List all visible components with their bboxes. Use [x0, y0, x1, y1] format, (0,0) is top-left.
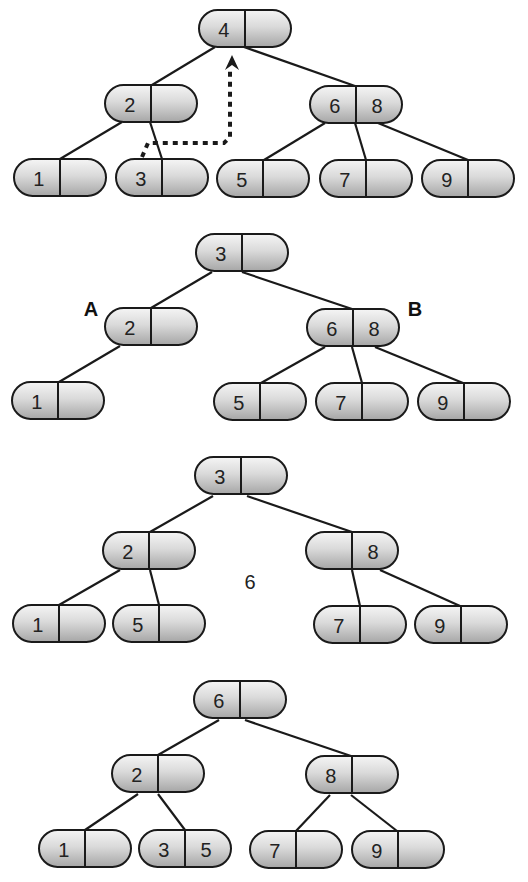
- tree-node-n2: 2: [105, 85, 197, 122]
- node-key-left: 1: [58, 839, 69, 861]
- node-key-right: 8: [368, 541, 379, 563]
- node-key-left: 6: [329, 95, 340, 117]
- tree-edge: [296, 795, 330, 831]
- tree-node-n4: 4: [199, 10, 291, 47]
- node-key-left: 3: [158, 839, 169, 861]
- tree-node-n3: 3: [116, 159, 208, 196]
- tree-edge: [380, 570, 460, 606]
- tree-node-n1: 1: [13, 605, 105, 642]
- node-key-left: 9: [441, 169, 452, 191]
- tree-node-n9: 9: [415, 606, 507, 643]
- arrow-up-icon: [225, 55, 239, 70]
- node-key-left: 1: [33, 168, 44, 190]
- tree-node-n1: 1: [39, 830, 131, 867]
- tree-node-n2: 2: [112, 755, 204, 792]
- node-key-left: 2: [124, 94, 135, 116]
- tree-edge: [352, 570, 360, 606]
- tree-edge: [378, 123, 468, 160]
- tree-edge: [244, 47, 355, 86]
- tree-node-n68: 68: [307, 309, 399, 346]
- tree-node-n6: 6: [194, 681, 286, 718]
- node-key-left: 9: [434, 615, 445, 637]
- subtree-label-b: B: [408, 298, 422, 320]
- tree-edge: [158, 794, 185, 830]
- tree-edge: [158, 720, 219, 755]
- tree-edge: [59, 570, 120, 605]
- tree-edge: [261, 347, 325, 383]
- tree-edge: [264, 123, 325, 160]
- tree-edge: [242, 272, 352, 309]
- tree-edge: [150, 122, 162, 159]
- tree-edge: [59, 346, 120, 382]
- node-key-left: 8: [325, 765, 336, 787]
- tree-edge: [352, 347, 362, 383]
- tree-node-n7: 7: [320, 160, 412, 197]
- tree-node-n5: 5: [214, 383, 306, 420]
- node-key-left: 3: [135, 168, 146, 190]
- node-key-left: 1: [31, 391, 42, 413]
- tree-node-n7: 7: [250, 831, 342, 868]
- node-key-left: 7: [333, 615, 344, 637]
- node-key-left: 2: [124, 317, 135, 339]
- tree-node-n1: 1: [14, 159, 106, 196]
- tree-edge: [150, 496, 213, 532]
- node-key-left: 9: [437, 392, 448, 414]
- tree-step-3: 32815796: [13, 457, 507, 643]
- node-key-left: 7: [269, 840, 280, 862]
- node-key-left: 7: [335, 392, 346, 414]
- node-key-left: 5: [132, 614, 143, 636]
- tree-step-4: 62813579: [39, 681, 444, 868]
- tree-node-n35: 35: [139, 830, 231, 867]
- tree-edge: [247, 496, 352, 532]
- tree-node-n9: 9: [352, 831, 444, 868]
- tree-node-n7: 7: [314, 606, 406, 643]
- node-key-left: 9: [371, 840, 382, 862]
- node-key-right: 8: [369, 318, 380, 340]
- tree-node-n8: 8: [306, 532, 398, 569]
- tree-diagram-canvas: 42681357932681579AB3281579662813579: [0, 0, 528, 882]
- node-key-right: 8: [372, 95, 383, 117]
- tree-node-n5: 5: [113, 605, 205, 642]
- node-key-left: 2: [131, 764, 142, 786]
- node-key-left: 3: [215, 243, 226, 265]
- node-key-right: 5: [201, 839, 212, 861]
- tree-node-n9: 9: [418, 383, 510, 420]
- node-key-left: 5: [236, 169, 247, 191]
- tree-node-n7: 7: [316, 383, 408, 420]
- tree-step-2: 32681579AB: [12, 234, 510, 420]
- tree-edge: [375, 347, 463, 383]
- floating-key: 6: [244, 571, 255, 593]
- tree-edge: [85, 794, 138, 830]
- tree-node-n5: 5: [217, 160, 309, 197]
- diagrams-root: 42681357932681579AB3281579662813579: [12, 10, 514, 868]
- tree-node-n2: 2: [103, 532, 195, 569]
- tree-node-n9: 9: [422, 160, 514, 197]
- node-key-left: 1: [32, 614, 43, 636]
- tree-edge: [351, 795, 397, 831]
- node-key-left: 5: [233, 392, 244, 414]
- node-key-left: 7: [339, 169, 350, 191]
- tree-node-n2: 2: [105, 308, 197, 345]
- node-key-left: 6: [213, 690, 224, 712]
- tree-step-1: 426813579: [14, 10, 514, 197]
- node-key-left: 4: [218, 19, 229, 41]
- tree-node-n68: 68: [310, 86, 402, 123]
- node-key-left: 2: [122, 541, 133, 563]
- tree-node-n8: 8: [306, 756, 398, 793]
- node-key-left: 6: [326, 318, 337, 340]
- tree-edge: [245, 720, 351, 756]
- tree-edge: [152, 47, 215, 85]
- tree-node-n1: 1: [12, 382, 104, 419]
- node-key-left: 3: [214, 466, 225, 488]
- tree-node-n3: 3: [196, 234, 288, 271]
- tree-node-n3: 3: [195, 457, 287, 494]
- tree-edge: [151, 272, 212, 308]
- tree-edge: [355, 123, 366, 160]
- subtree-label-a: A: [84, 298, 98, 320]
- tree-edge: [150, 570, 159, 605]
- tree-edge: [60, 122, 122, 159]
